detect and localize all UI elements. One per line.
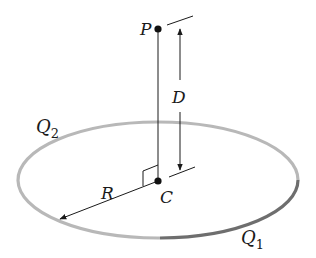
label-d: D	[171, 87, 186, 107]
ring-diagram: P C D R Q2 Q1	[0, 0, 316, 258]
label-c: C	[160, 187, 173, 207]
label-r: R	[100, 183, 114, 203]
label-q2: Q2	[36, 116, 59, 141]
label-q1: Q1	[241, 227, 264, 252]
point-c-dot	[154, 177, 161, 184]
d-extension-top	[167, 16, 193, 25]
point-p-dot	[154, 25, 161, 32]
d-extension-bottom	[169, 167, 195, 177]
ring-q1-arc	[160, 180, 298, 238]
label-p: P	[139, 19, 152, 39]
